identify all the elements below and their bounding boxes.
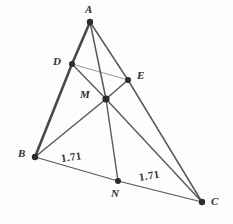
vertex-label-A: A: [85, 4, 92, 15]
segment-NC: [118, 181, 202, 202]
vertex-label-E: E: [137, 70, 144, 81]
segment-MC: [106, 99, 202, 202]
segment-MN: [106, 99, 118, 181]
vertex-point-E: [125, 77, 131, 83]
segment-AD: [72, 22, 90, 64]
vertex-point-M: [102, 95, 109, 102]
segment-ME: [106, 80, 128, 99]
vertex-label-B: B: [18, 148, 25, 159]
vertex-point-A: [87, 19, 93, 25]
vertex-label-C: C: [211, 196, 218, 207]
segments-layer: [35, 22, 202, 202]
vertex-label-N: N: [111, 188, 119, 199]
segment-DB: [35, 64, 72, 157]
diagram-canvas: ADEMBNC1.711.71: [0, 0, 233, 224]
vertex-point-D: [69, 61, 75, 67]
vertex-point-C: [199, 199, 205, 205]
vertex-point-B: [32, 154, 38, 160]
vertex-label-D: D: [53, 56, 61, 67]
vertex-point-N: [115, 178, 121, 184]
vertex-label-M: M: [80, 89, 90, 100]
segment-EC: [128, 80, 202, 202]
